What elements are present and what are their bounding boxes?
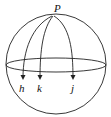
label-pole: P [53,2,61,14]
label-j: j [69,82,74,94]
label-k: k [37,82,43,94]
meridian-k [40,16,53,78]
label-h: h [19,82,25,94]
sphere-outline [6,14,106,114]
arrowhead-k [38,75,43,80]
sphere-diagram: P h k j [0,0,111,117]
arrowhead-h [21,75,26,80]
meridian-j [54,16,73,78]
arrowhead-j [71,75,76,80]
equator [6,58,106,72]
